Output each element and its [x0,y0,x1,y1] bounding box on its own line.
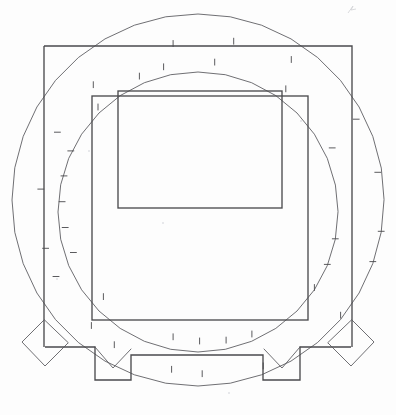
outer-circle-polygon [12,14,384,386]
paper-speck [56,278,58,280]
paper-speck [88,150,90,152]
paper-speck [300,120,302,122]
technical-drawing-canvas: Technical Line Drawing Symmetric CAD-sty… [0,0,396,415]
inner-circle-vertex-ticks [59,59,338,344]
inner-circle-polygon [58,72,338,352]
outer-circle-group [12,14,384,386]
line-drawing-svg [0,0,396,415]
bottom-right-notch-icon [328,320,374,366]
inner-rectangle-outline [118,91,282,208]
paper-speck [162,222,164,224]
inner-circle-group [58,59,338,352]
corner-notch-group [22,320,374,368]
inner-rectangle-group [118,91,282,208]
paper-speck [228,392,230,394]
bottom-left-notch-icon [22,320,68,366]
corner-smudge-icon [346,4,358,16]
